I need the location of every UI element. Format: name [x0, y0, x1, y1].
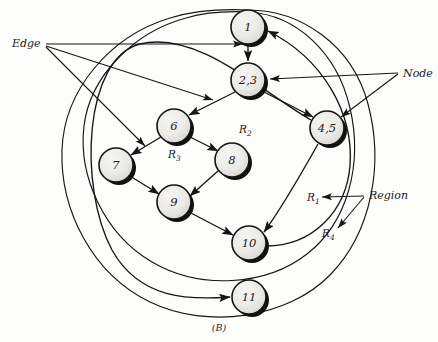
region-R2-base: R: [238, 123, 247, 135]
edge-45-to-10: [264, 144, 318, 232]
node-8-label: 8: [228, 153, 235, 167]
node-11-label: 11: [242, 290, 257, 304]
node-2-3[interactable]: 2,3: [231, 63, 268, 100]
region-R4: R 4: [321, 227, 335, 242]
region-pointer-to-R1: [322, 196, 364, 197]
region-callout-label: Region: [368, 189, 408, 202]
node-7[interactable]: 7: [99, 148, 136, 185]
node-9-label: 9: [170, 195, 177, 209]
region-R2-subscript: 2: [246, 129, 252, 138]
edge-pointer-to-23-6: [46, 46, 213, 100]
edge-callout-label: Edge: [11, 37, 41, 50]
region-R3: R 3: [167, 148, 181, 163]
node-7-label: 7: [112, 158, 120, 172]
figure-caption: (B): [212, 322, 227, 333]
node-8[interactable]: 8: [215, 143, 252, 180]
edge-6-to-8: [188, 136, 218, 151]
region-R1: R 1: [306, 191, 320, 206]
node-2-3-label: 2,3: [238, 73, 257, 87]
region-pointer-to-R4: [338, 197, 364, 228]
edge-7-to-9: [130, 176, 159, 194]
region-R1-subscript: 1: [315, 197, 320, 206]
node-10[interactable]: 10: [232, 226, 269, 263]
node-10-label: 10: [242, 236, 257, 250]
region-R3-base: R: [167, 148, 176, 160]
node-9[interactable]: 9: [157, 185, 194, 222]
node-6[interactable]: 6: [157, 109, 194, 146]
region-R4-base: R: [321, 227, 330, 239]
graph-canvas: 1 2,3 4,5 6: [0, 0, 438, 342]
region-R3-subscript: 3: [176, 154, 181, 163]
edge-9-to-10: [189, 212, 233, 235]
node-pointer-to-23: [270, 73, 398, 79]
edge-8-to-9: [190, 171, 218, 196]
node-1-label: 1: [244, 20, 251, 34]
region-R4-subscript: 4: [329, 233, 335, 242]
region-R2: R 2: [238, 123, 252, 138]
region-labels: R 1 R 2 R 3 R 4: [167, 123, 335, 242]
edge-23-to-45: [262, 91, 313, 117]
region-R1-base: R: [306, 191, 315, 203]
node-11[interactable]: 11: [232, 280, 269, 317]
node-4-5-label: 4,5: [317, 121, 336, 135]
node-1[interactable]: 1: [231, 10, 268, 47]
edge-23-to-6: [189, 92, 235, 115]
node-callout-label: Node: [402, 67, 433, 80]
node-6-label: 6: [170, 119, 177, 133]
graph-figure: 1 2,3 4,5 6: [0, 0, 438, 342]
edge-6-to-7: [131, 137, 161, 155]
graph-nodes: 1 2,3 4,5 6: [99, 10, 347, 317]
